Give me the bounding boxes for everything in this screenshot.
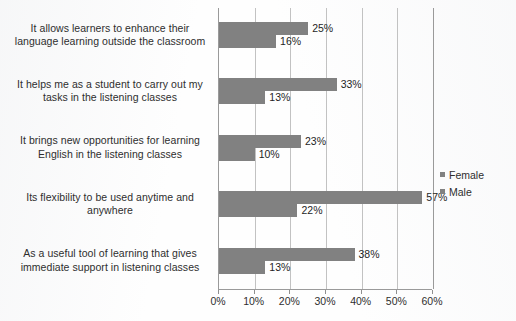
category-label-line: It helps me as a student to carry out my [4,78,216,92]
bar-male-1[interactable] [219,35,276,48]
bar-value-female-1: 25% [312,22,333,35]
category-label-4: Its flexibility to be used anytime andan… [4,191,216,218]
bar-value-male-2: 13% [269,91,290,104]
category-label-5: As a useful tool of learning that givesi… [4,247,216,274]
category-label-line: It brings new opportunities for learning [4,134,216,148]
xtick-label-50%: 50% [386,294,407,308]
category-label-line: tasks in the listening classes [4,91,216,105]
xtick-label-60%: 60% [421,294,442,308]
bar-value-male-3: 10% [259,148,280,161]
bar-male-4[interactable] [219,204,297,217]
bar-female-1[interactable] [219,22,308,35]
legend-swatch-icon [440,172,445,177]
category-label-line: anywhere [4,204,216,218]
bar-male-5[interactable] [219,261,265,274]
category-axis: It allows learners to enhance theirlangu… [4,8,216,290]
chart-legend: FemaleMale [440,166,512,200]
category-label-line: language learning outside the classroom [4,35,216,49]
xtick-label-30%: 30% [314,294,335,308]
xtick-label-40%: 40% [350,294,371,308]
bar-value-female-5: 38% [359,248,380,261]
legend-entry-male[interactable]: Male [440,183,512,200]
category-label-line: English in the listening classes [4,148,216,162]
xtick-label-10%: 10% [243,294,264,308]
category-label-1: It allows learners to enhance theirlangu… [4,22,216,49]
figure-caption [38,309,368,320]
category-label-line: immediate support in listening classes [4,261,216,275]
bar-female-5[interactable] [219,248,355,261]
legend-entry-female[interactable]: Female [440,166,512,183]
bar-value-female-2: 33% [341,78,362,91]
plot-area: 25%16%33%13%23%10%57%22%38%13% [218,8,432,290]
gridline-60% [433,8,434,289]
bar-female-2[interactable] [219,78,337,91]
bar-male-3[interactable] [219,148,255,161]
category-label-line: As a useful tool of learning that gives [4,247,216,261]
category-label-2: It helps me as a student to carry out my… [4,78,216,105]
gridline-50% [397,8,398,289]
bar-male-2[interactable] [219,91,265,104]
legend-label: Female [449,169,484,181]
category-label-3: It brings new opportunities for learning… [4,134,216,161]
category-label-line: Its flexibility to be used anytime and [4,191,216,205]
x-axis: 0%10%20%30%40%50%60% [218,290,432,310]
xtick-label-20%: 20% [279,294,300,308]
legend-swatch-icon [440,189,445,194]
bar-value-male-4: 22% [301,204,322,217]
bar-value-male-5: 13% [269,261,290,274]
bar-female-4[interactable] [219,191,422,204]
legend-label: Male [449,186,472,198]
bar-female-3[interactable] [219,135,301,148]
xtick-label-0%: 0% [210,294,225,308]
category-label-line: It allows learners to enhance their [4,22,216,36]
bar-value-female-3: 23% [305,135,326,148]
chart-figure: It allows learners to enhance theirlangu… [0,0,516,321]
bar-value-male-1: 16% [280,35,301,48]
